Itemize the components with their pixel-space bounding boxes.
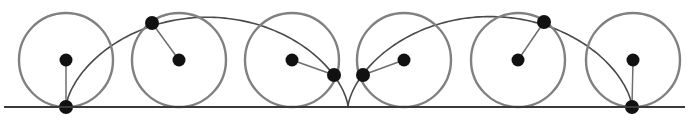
circle-center-dot [173,54,186,67]
tracing-point-dot [327,68,341,82]
radius-segments-layer [66,22,633,107]
cycloid-curve-layer [66,17,632,107]
tracing-point-dot [145,16,159,30]
circle-center-dot [512,54,525,67]
tracing-point-dot [356,68,370,82]
radius-segment [632,60,633,107]
circle-center-dot [398,54,411,67]
cycloid-arch [348,17,632,107]
cycloid-arch [66,17,348,107]
tracing-point-dot [537,15,551,29]
circle-center-dot [627,54,640,67]
circle-center-dot [60,54,73,67]
circle-center-dot [286,54,299,67]
rolling-circles-layer [19,13,680,107]
cycloid-figure [0,0,689,127]
cycloid-diagram-canvas [0,0,689,127]
